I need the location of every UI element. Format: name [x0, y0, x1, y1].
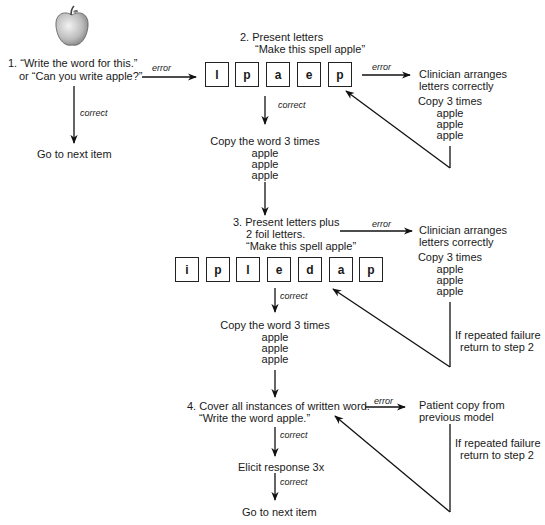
- letter-tile: p: [328, 62, 352, 87]
- letter-tile: a: [266, 62, 290, 87]
- letter-tile: l: [236, 257, 260, 282]
- step3-subtitle: 2 foil letters.: [246, 228, 305, 240]
- step4-title: 4. Cover all instances of written word.: [187, 400, 370, 412]
- letter-tile: p: [235, 62, 259, 87]
- step4-failure-line2: return to step 2: [460, 449, 534, 461]
- step2-title: 2. Present letters: [240, 31, 323, 43]
- letter-tile: p: [206, 257, 230, 282]
- letter-tile: p: [359, 257, 383, 282]
- letter-tile: e: [267, 257, 291, 282]
- step2-copy-word: apple: [205, 169, 325, 181]
- step4-next-item: Go to next item: [242, 506, 317, 518]
- step4-correct-label-2: correct: [280, 477, 308, 487]
- step2-error-action-line1: Clinician arranges: [419, 68, 507, 80]
- letter-tile: a: [329, 257, 353, 282]
- step2-error-action-line2: letters correctly: [419, 80, 494, 92]
- step4-correct-label: correct: [280, 430, 308, 440]
- step2-error-copy-word: apple: [410, 129, 490, 141]
- step3-error-action-line2: letters correctly: [419, 236, 494, 248]
- loop2-return-arrow: [333, 289, 450, 367]
- step2-copy-title: Copy the word 3 times: [205, 135, 325, 147]
- step4-instruction: “Write the word apple.”: [199, 412, 310, 424]
- step4-elicit: Elicit response 3x: [238, 461, 324, 473]
- step4-failure-line1: If repeated failure: [455, 437, 541, 449]
- step3-correct-label: correct: [280, 291, 308, 301]
- letter-tile: e: [297, 62, 321, 87]
- letter-tile: i: [175, 257, 199, 282]
- step2-correct-label: correct: [278, 100, 306, 110]
- step2-error-copy-title: Copy 3 times: [410, 95, 490, 107]
- step3-error-label: error: [372, 219, 391, 229]
- loop3-return-arrow: [335, 416, 450, 512]
- letter-tile: d: [298, 257, 322, 282]
- step3-error-copy-word: apple: [410, 285, 490, 297]
- step1-prompt-line2: or “Can you write apple?”: [19, 70, 143, 82]
- step4-error-action-line1: Patient copy from: [419, 399, 505, 411]
- step4-error-action-line2: previous model: [419, 411, 494, 423]
- step1-prompt-line1: 1. “Write the word for this.”: [8, 57, 137, 69]
- step3-copy-word: apple: [215, 353, 335, 365]
- step3-error-copy-title: Copy 3 times: [410, 251, 490, 263]
- step1-error-label: error: [152, 63, 171, 73]
- letter-tile: l: [205, 62, 229, 87]
- step3-failure-line2: return to step 2: [460, 341, 534, 353]
- step2-error-label: error: [372, 62, 391, 72]
- apple-icon: [54, 4, 90, 48]
- step3-error-action-line1: Clinician arranges: [419, 224, 507, 236]
- step1-next-item: Go to next item: [37, 148, 112, 160]
- step4-error-label: error: [374, 396, 393, 406]
- step3-title: 3. Present letters plus: [233, 216, 339, 228]
- step3-instruction: “Make this spell apple”: [246, 240, 356, 252]
- step2-instruction: “Make this spell apple”: [255, 43, 365, 55]
- step3-failure-line1: If repeated failure: [455, 329, 541, 341]
- step1-correct-label: correct: [80, 108, 108, 118]
- step3-copy-title: Copy the word 3 times: [215, 319, 335, 331]
